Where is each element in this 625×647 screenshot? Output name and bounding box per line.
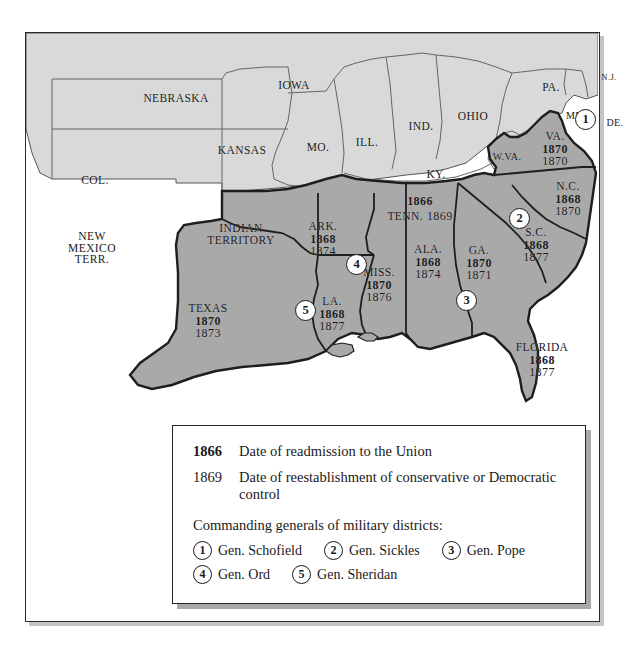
legend-text-control: Date of reestablishment of conservative … <box>239 469 559 503</box>
district-marker-3[interactable]: 3 <box>456 290 477 311</box>
legend-general-name-3: Gen. Pope <box>467 543 525 559</box>
legend-general-name-5: Gen. Sheridan <box>317 567 397 583</box>
district-marker-5[interactable]: 5 <box>295 300 316 321</box>
district-marker-2[interactable]: 2 <box>509 208 530 229</box>
legend-general-3: 3 Gen. Pope <box>442 541 525 560</box>
legend-general-name-4: Gen. Ord <box>218 567 270 583</box>
legend-general-number-2: 2 <box>324 541 343 560</box>
legend-general-5: 5 Gen. Sheridan <box>292 565 397 584</box>
legend-year-control: 1869 <box>193 469 239 486</box>
legend-general-4: 4 Gen. Ord <box>193 565 270 584</box>
map-figure: NEBRASKA IOWA ILL. IND. OHIO PA. N.J. MD… <box>0 0 625 647</box>
legend-general-number-1: 1 <box>193 541 212 560</box>
legend-general-number-5: 5 <box>292 565 311 584</box>
legend-generals-heading: Commanding generals of military district… <box>193 517 585 534</box>
legend-year-readmission: 1866 <box>193 443 239 460</box>
district-marker-1[interactable]: 1 <box>575 109 596 130</box>
map-legend: 1866 Date of readmission to the Union 18… <box>172 425 586 604</box>
legend-row-control: 1869 Date of reestablishment of conserva… <box>193 469 585 503</box>
legend-text-readmission: Date of readmission to the Union <box>239 443 432 460</box>
legend-general-number-4: 4 <box>193 565 212 584</box>
legend-general-name-1: Gen. Schofield <box>218 543 302 559</box>
legend-generals-row-1: 1 Gen. Schofield 2 Gen. Sickles 3 Gen. P… <box>193 541 585 560</box>
legend-generals-row-2: 4 Gen. Ord 5 Gen. Sheridan <box>193 565 585 584</box>
state-label-delaware: DE. <box>598 118 625 128</box>
legend-general-1: 1 Gen. Schofield <box>193 541 302 560</box>
legend-general-number-3: 3 <box>442 541 461 560</box>
legend-general-2: 2 Gen. Sickles <box>324 541 420 560</box>
legend-row-readmission: 1866 Date of readmission to the Union <box>193 443 585 460</box>
district-marker-4[interactable]: 4 <box>346 254 367 275</box>
legend-general-name-2: Gen. Sickles <box>349 543 420 559</box>
